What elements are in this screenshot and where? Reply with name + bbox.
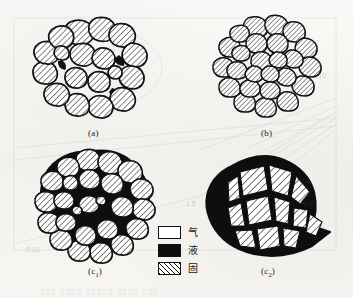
legend-label-solid: 固 [188, 264, 198, 274]
panel-b-caption: (b) [261, 128, 272, 138]
panel-a-diagram [33, 17, 147, 118]
panel-c2-caption: (c2) [261, 266, 275, 278]
panel-a-solid-particles [33, 17, 147, 118]
panel-c1-diagram [35, 149, 155, 263]
legend-item-gas: 气 [158, 225, 198, 240]
liquid-phase-swatch-icon [158, 244, 181, 257]
panel-b-diagram [213, 15, 321, 117]
legend-item-solid: 固 [158, 261, 198, 276]
panel-c1-caption-close: ) [99, 266, 102, 276]
legend-item-liquid: 液 [158, 243, 198, 258]
panel-c2-caption-close: ) [272, 266, 275, 276]
phase-legend: 气 液 固 [158, 225, 198, 276]
panel-b-solid-particles [213, 15, 321, 117]
panel-a-caption: (a) [88, 128, 99, 138]
panel-c2-diagram [206, 156, 330, 256]
legend-label-gas: 气 [188, 228, 198, 238]
panel-c1-caption: (c1) [88, 266, 102, 278]
gas-phase-swatch-icon [158, 226, 181, 239]
solid-phase-swatch-icon [158, 262, 181, 275]
legend-label-liquid: 液 [188, 246, 198, 256]
